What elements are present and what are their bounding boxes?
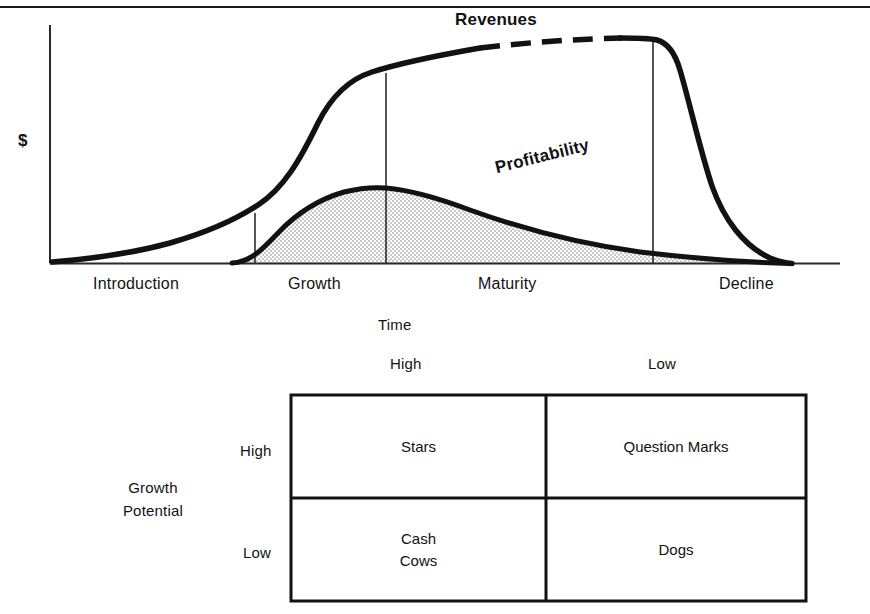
revenues-curve-rise (52, 48, 480, 262)
matrix-column-header-high: High (390, 355, 422, 372)
y-axis-label: $ (18, 131, 28, 151)
stage-label-decline: Decline (719, 275, 774, 293)
stage-label-introduction: Introduction (93, 275, 179, 293)
revenues-curve-decline (620, 38, 792, 264)
matrix-cell-dogs[interactable]: Dogs (546, 498, 806, 601)
profitability-series-label: Profitability (493, 135, 591, 178)
matrix-row-group-label-line2: Potential (98, 500, 208, 523)
profitability-shaded-area (232, 188, 790, 263)
matrix-cell-cash-cows[interactable]: Cash Cows (291, 498, 546, 601)
revenues-curve-dashed-plateau (480, 38, 622, 48)
stage-label-growth: Growth (288, 275, 341, 293)
profitability-curve (232, 188, 790, 264)
matrix-cell-stars[interactable]: Stars (291, 395, 546, 498)
matrix-cell-question-marks-label: Question Marks (623, 436, 728, 458)
matrix-cell-stars-label: Stars (401, 436, 436, 458)
x-axis-label-time: Time (378, 316, 412, 333)
matrix-row-header-high: High (240, 442, 272, 459)
matrix-row-group-label-line1: Growth (98, 477, 208, 500)
page-top-rule (0, 6, 870, 8)
matrix-cell-cash-cows-label-line1: Cash (401, 528, 436, 550)
matrix-row-group-label: Growth Potential (98, 477, 208, 522)
matrix-column-header-low: Low (648, 355, 676, 372)
stage-label-maturity: Maturity (478, 275, 537, 293)
matrix-cell-dogs-label: Dogs (658, 539, 693, 561)
matrix-cell-cash-cows-label-line2: Cows (400, 550, 438, 572)
matrix-row-header-low: Low (243, 544, 271, 561)
figure-page: $ Revenues Profitability Introduction Gr… (0, 0, 870, 614)
revenues-series-label: Revenues (455, 10, 537, 30)
matrix-cell-question-marks[interactable]: Question Marks (546, 395, 806, 498)
